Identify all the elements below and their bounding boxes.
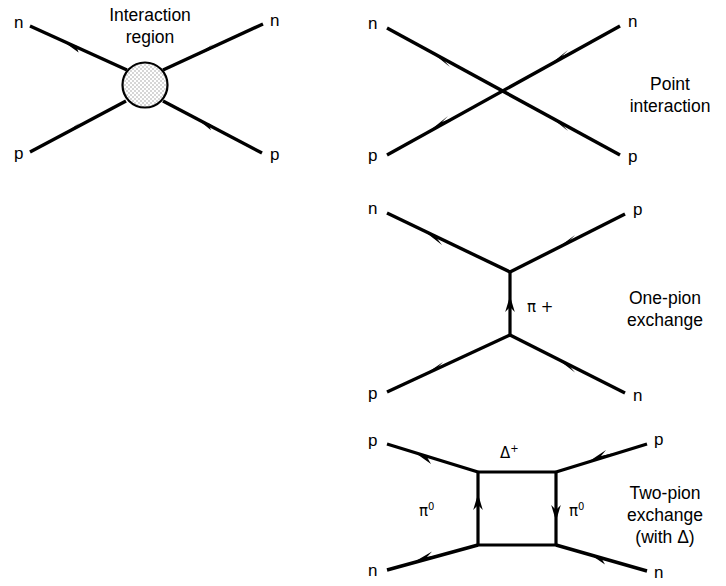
label-diagram2-neutron-out: n [628, 13, 637, 30]
line-neutron-out [556, 545, 647, 571]
caption-interaction-region-line1: Interaction [85, 5, 215, 27]
label-diagram3-proton-out: p [633, 201, 642, 218]
label-pion-plus: π + [527, 300, 553, 315]
line-proton-in [387, 335, 510, 392]
label-diagram2-proton-out: p [628, 148, 637, 165]
pion-right-charge: 0 [578, 501, 584, 512]
label-diagram2-proton-in: p [368, 147, 377, 164]
line-proton-out [163, 101, 262, 153]
label-diagram3-proton-in: p [368, 385, 377, 402]
label-diagram1-neutron-in: n [14, 14, 23, 31]
caption-two-pion-exchange-line1: Two-pion [604, 483, 726, 505]
label-delta-plus: Δ+ [500, 446, 519, 461]
caption-two-pion-exchange-line3: (with Δ) [604, 527, 726, 549]
label-diagram3-neutron-out: n [633, 387, 642, 404]
delta-symbol: Δ [500, 444, 510, 462]
caption-interaction-region-line2: region [85, 27, 215, 49]
feynman-diagram-figure: n p n p Interaction region n p n p Point… [0, 0, 726, 586]
line-neutron-in [387, 213, 510, 272]
label-diagram1-proton-out: p [270, 146, 279, 163]
label-diagram4-neutron-out: n [654, 564, 663, 581]
pion-left-charge: 0 [428, 501, 434, 512]
label-pion-zero-right: π0 [569, 504, 584, 519]
caption-two-pion-exchange-line2: exchange [604, 505, 726, 527]
pion-right-symbol: π [569, 502, 578, 520]
caption-one-pion-exchange-line1: One-pion [604, 288, 726, 310]
caption-one-pion-exchange-line2: exchange [604, 310, 726, 332]
line-proton-out [556, 444, 647, 472]
line-proton-in [30, 101, 126, 152]
label-diagram4-proton-in: p [368, 432, 377, 449]
label-diagram4-proton-out: p [654, 431, 663, 448]
diagram-point-interaction [387, 26, 620, 155]
label-diagram1-neutron-out: n [270, 12, 279, 29]
line-neutron-in [387, 545, 478, 570]
pion-left-symbol: π [419, 502, 428, 520]
label-diagram3-neutron-in: n [368, 200, 377, 217]
diagram-one-pion-exchange [387, 213, 625, 393]
label-diagram2-neutron-in: n [368, 15, 377, 32]
label-diagram4-neutron-in: n [368, 562, 377, 579]
caption-point-interaction-line1: Point [614, 74, 726, 96]
delta-charge: + [510, 443, 518, 454]
caption-point-interaction-line2: interaction [614, 96, 726, 118]
label-pion-zero-left: π0 [419, 504, 434, 519]
interaction-blob [123, 63, 168, 108]
label-diagram1-proton-in: p [14, 145, 23, 162]
